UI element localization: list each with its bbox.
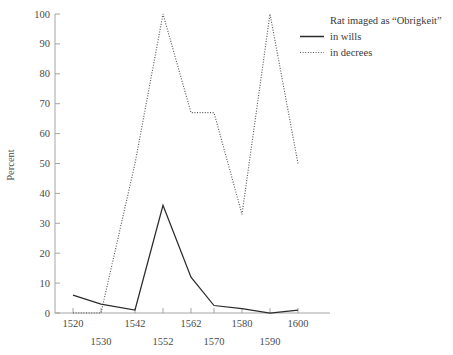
legend-label-in-wills: in wills bbox=[330, 31, 361, 42]
x-tick-label: 1562 bbox=[181, 318, 202, 329]
y-tick-label: 70 bbox=[40, 98, 51, 109]
y-tick-label: 10 bbox=[40, 278, 51, 289]
y-tick-label: 20 bbox=[40, 248, 51, 259]
x-tick-label: 1530 bbox=[91, 336, 112, 347]
x-tick-label: 1520 bbox=[63, 318, 84, 329]
series-line-in-decrees bbox=[73, 14, 298, 313]
x-tick-label: 1590 bbox=[260, 336, 281, 347]
x-tick-label: 1570 bbox=[204, 336, 225, 347]
x-axis-tick-labels-upper: 1520 1542 1562 1580 1600 bbox=[63, 318, 309, 329]
y-tick-label: 0 bbox=[45, 308, 50, 319]
y-axis-tick-labels: 0 10 20 30 40 50 60 70 80 90 100 bbox=[34, 9, 50, 319]
legend-title: Rat imaged as “Obrigkeit” bbox=[330, 15, 442, 26]
series-line-in-wills bbox=[73, 205, 298, 313]
chart-container: 0 10 20 30 40 50 60 70 80 90 100 Percent bbox=[0, 0, 453, 355]
y-tick-label: 50 bbox=[40, 158, 51, 169]
legend-label-in-decrees: in decrees bbox=[330, 47, 372, 58]
y-axis-title: Percent bbox=[5, 149, 16, 181]
y-tick-label: 90 bbox=[40, 38, 51, 49]
x-tick-label: 1600 bbox=[288, 318, 309, 329]
y-tick-label: 40 bbox=[40, 188, 51, 199]
line-chart: 0 10 20 30 40 50 60 70 80 90 100 Percent bbox=[0, 0, 453, 355]
y-tick-label: 80 bbox=[40, 68, 51, 79]
y-tick-label: 100 bbox=[34, 9, 50, 20]
x-axis-tick-labels-lower: 1530 1552 1570 1590 bbox=[91, 336, 281, 347]
y-axis-ticks bbox=[55, 14, 60, 313]
x-tick-label: 1542 bbox=[125, 318, 146, 329]
x-tick-label: 1580 bbox=[232, 318, 253, 329]
legend: Rat imaged as “Obrigkeit” in wills in de… bbox=[300, 15, 442, 58]
x-tick-label: 1552 bbox=[153, 336, 174, 347]
y-tick-label: 60 bbox=[40, 128, 51, 139]
y-tick-label: 30 bbox=[40, 218, 51, 229]
